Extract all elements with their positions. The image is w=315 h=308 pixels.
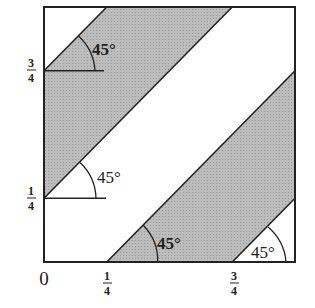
y-label-1-4: 1 4: [27, 184, 36, 213]
svg-text:4: 4: [28, 199, 34, 213]
svg-text:4: 4: [104, 284, 110, 298]
svg-text:4: 4: [28, 71, 34, 85]
svg-text:4: 4: [231, 284, 237, 298]
unit-square-diagram: 45° 45° 45° 45° 3 4 1 4 0 1 4 3 4: [0, 0, 315, 308]
angle-label-bottom-right: 45°: [251, 243, 275, 262]
svg-text:1: 1: [28, 184, 34, 198]
origin-label: 0: [39, 268, 49, 289]
x-label-3-4: 3 4: [230, 269, 239, 298]
svg-text:1: 1: [104, 269, 110, 283]
x-label-1-4: 1 4: [103, 269, 112, 298]
angle-label-mid-left: 45°: [97, 168, 121, 187]
angle-label-bottom-mid: 45°: [157, 234, 181, 253]
y-label-3-4: 3 4: [27, 56, 36, 85]
angle-arc-mid-left: [80, 163, 96, 199]
angle-label-top-left: 45°: [92, 40, 116, 59]
svg-text:3: 3: [231, 269, 237, 283]
svg-text:3: 3: [28, 56, 34, 70]
